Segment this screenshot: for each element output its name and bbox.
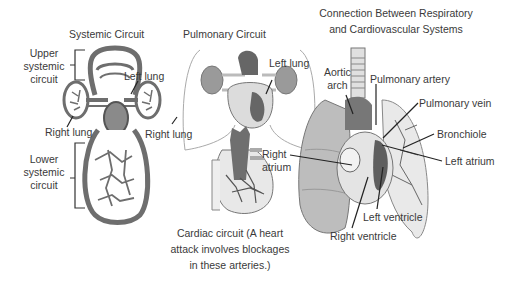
systemic-left-lung-label: Left lung: [124, 70, 164, 83]
bronchiole-label: Bronchiole: [437, 128, 487, 141]
lower-systemic-label: Lowersystemiccircuit: [22, 153, 66, 192]
left-ventricle-label: Left ventricle: [363, 211, 423, 224]
connection-title: Connection Between Respiratoryand Cardio…: [296, 5, 496, 37]
pulmonary-artery-label: Pulmonary artery: [370, 73, 450, 86]
aortic-arch-label: Aorticarch: [324, 66, 351, 92]
left-atrium-label: Left atrium: [445, 155, 495, 168]
pulmonary-title: Pulmonary Circuit: [183, 28, 266, 41]
right-atrium-label: Rightatrium: [262, 148, 291, 174]
right-ventricle-label: Right ventricle: [330, 230, 397, 243]
cardiac-caption: Cardiac circuit (A heartattack involves …: [170, 225, 290, 273]
systemic-title: Systemic Circuit: [69, 28, 144, 41]
pulmonary-left-lung-label: Left lung: [269, 57, 309, 70]
systemic-right-lung-label: Right lung: [45, 126, 92, 139]
pulmonary-vein-label: Pulmonary vein: [419, 97, 491, 110]
pulmonary-right-lung-label: Right lung: [145, 128, 192, 141]
upper-systemic-label: Uppersystemiccircuit: [22, 47, 66, 86]
